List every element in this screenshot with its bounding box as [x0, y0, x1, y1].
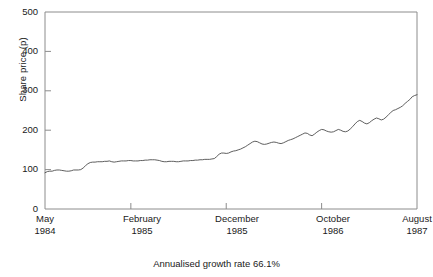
share-price-line [45, 95, 417, 173]
x-tick-month-1: February [102, 213, 182, 225]
x-tick-label-2: December 1985 [197, 213, 277, 236]
x-tick-year-2: 1985 [197, 225, 277, 237]
x-tick-month-2: December [197, 213, 277, 225]
share-price-chart-figure: Share price (p) 500 400 300 200 100 0 Ma… [0, 0, 433, 277]
x-tick-year-0: 1984 [5, 225, 85, 237]
x-tick-year-4: 1987 [377, 225, 433, 237]
x-tick-month-0: May [5, 213, 85, 225]
x-tick-label-0: May 1984 [5, 213, 85, 236]
x-tick-month-3: October [293, 213, 373, 225]
chart-caption: Annualised growth rate 66.1% [0, 258, 433, 269]
x-tick-month-4: August [377, 213, 433, 225]
x-tick-year-1: 1985 [102, 225, 182, 237]
y-tick-marks [45, 51, 51, 169]
x-tick-label-4: August 1987 [377, 213, 433, 236]
x-tick-year-3: 1986 [293, 225, 373, 237]
x-tick-label-3: October 1986 [293, 213, 373, 236]
x-tick-label-1: February 1985 [102, 213, 182, 236]
x-tick-marks [131, 203, 322, 209]
plot-frame [45, 12, 417, 209]
